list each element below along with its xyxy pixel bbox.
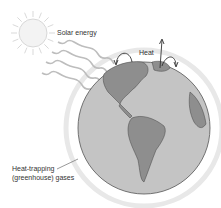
gases-label-line2: (greenhouse) gases xyxy=(12,174,74,183)
heat-label: Heat xyxy=(139,49,154,58)
sun-icon xyxy=(11,11,55,55)
gases-label: Heat-trapping (greenhouse) gases xyxy=(12,165,74,182)
earth-globe xyxy=(78,61,210,194)
solar-energy-label: Solar energy xyxy=(57,29,97,38)
gases-label-line1: Heat-trapping xyxy=(12,165,74,174)
